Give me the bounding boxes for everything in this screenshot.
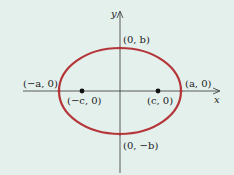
right-focus-label: (c, 0) bbox=[147, 95, 173, 106]
left-focus-label: (−c, 0) bbox=[67, 95, 102, 106]
ellipse-diagram: y x (0, b) (0, −b) (−a, 0) (a, 0) (−c, 0… bbox=[0, 0, 234, 175]
x-axis-label: x bbox=[214, 94, 220, 105]
right-vertex-point bbox=[180, 90, 183, 93]
top-vertex-point bbox=[119, 47, 122, 50]
right-vertex-label: (a, 0) bbox=[185, 78, 212, 89]
y-axis-label: y bbox=[110, 8, 117, 19]
left-vertex-point bbox=[58, 90, 61, 93]
bottom-vertex-label: (0, −b) bbox=[123, 140, 158, 151]
left-vertex-label: (−a, 0) bbox=[23, 78, 58, 89]
diagram-canvas: y x (0, b) (0, −b) (−a, 0) (a, 0) (−c, 0… bbox=[0, 0, 234, 175]
right-focus-point bbox=[156, 89, 161, 94]
left-focus-point bbox=[80, 89, 85, 94]
bottom-vertex-point bbox=[119, 133, 122, 136]
top-vertex-label: (0, b) bbox=[123, 34, 150, 45]
